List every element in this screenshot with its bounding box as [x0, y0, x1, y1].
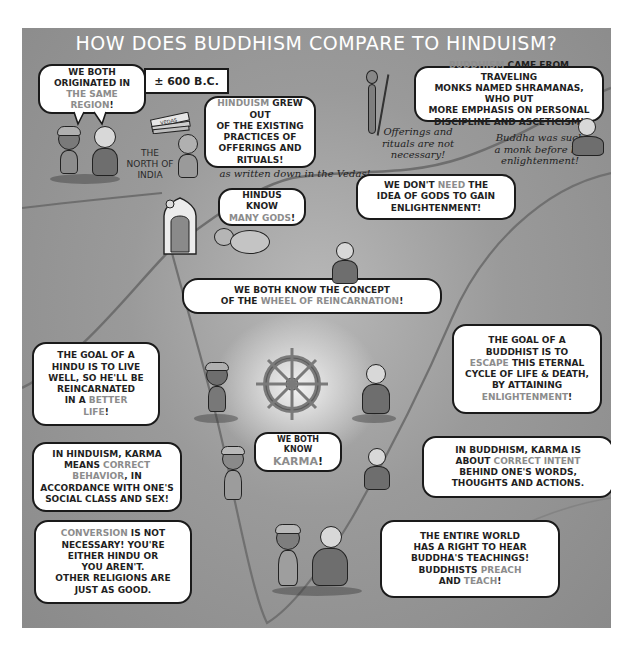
comic-panel: HOW DOES BUDDHISM COMPARE TO HINDUISM? ±…	[22, 28, 611, 628]
bubble-hindu-conversion: CONVERSION IS NOT NECESSARY! YOU'RE EITH…	[34, 520, 192, 604]
hindu-figure	[202, 364, 234, 418]
worshipper-figure	[214, 224, 274, 258]
buddhist-figure	[88, 126, 122, 178]
page-title: HOW DOES BUDDHISM COMPARE TO HINDUISM?	[22, 32, 611, 54]
hindu-figure	[272, 526, 304, 590]
date-label: ± 600 B.C.	[144, 68, 229, 94]
bubble-no-gods: WE DON'T NEED THE IDEA OF GODS TO GAIN E…	[356, 174, 516, 220]
bubble-buddhist-preach: THE ENTIRE WORLD HAS A RIGHT TO HEAR BUD…	[380, 520, 560, 598]
bubble-many-gods: HINDUS KNOW MANY GODS!	[218, 188, 306, 226]
bubble-both-karma: WE BOTH KNOW KARMA!	[254, 432, 342, 472]
note-vedas: as written down in the Vedas!	[210, 168, 380, 180]
bubble-hindu-goal: THE GOAL OF A HINDU IS TO LIVE WELL, SO …	[32, 342, 160, 426]
bubble-tail	[72, 112, 112, 126]
bubble-hindu-karma: IN HINDUISM, KARMA MEANS CORRECT BEHAVIO…	[32, 442, 182, 512]
region-label: THE NORTH OF INDIA	[126, 148, 174, 180]
hindu-priest-figure	[172, 134, 202, 182]
buddhist-figure	[308, 526, 352, 588]
hindu-figure	[54, 128, 84, 178]
monk-figure	[570, 118, 606, 158]
dharma-wheel-icon	[254, 346, 330, 422]
buddhist-figure	[362, 448, 392, 492]
bubble-hinduism-origin: HINDUISM GREW OUT OF THE EXISTING PRACTI…	[204, 96, 316, 168]
vedas-scrolls-icon: VEDAS	[150, 112, 192, 134]
bubble-buddhist-karma: IN BUDDHISM, KARMA IS ABOUT CORRECT INTE…	[422, 436, 611, 498]
ascetic-figure	[356, 70, 386, 140]
shrine-icon	[160, 196, 200, 258]
buddhist-figure	[358, 364, 392, 418]
bubble-reincarnation: WE BOTH KNOW THE CONCEPT OF THE WHEEL OF…	[182, 278, 442, 314]
bubble-buddhist-goal: THE GOAL OF A BUDDHIST IS TO ESCAPE THIS…	[452, 324, 602, 414]
hindu-figure	[218, 448, 248, 504]
bubble-same-region: WE BOTH ORIGINATED IN THE SAME REGION!	[38, 64, 146, 114]
buddhist-figure	[328, 242, 362, 286]
bubble-buddhism-origin: BUDDHISM CAME FROM TRAVELING MONKS NAMED…	[414, 66, 604, 122]
